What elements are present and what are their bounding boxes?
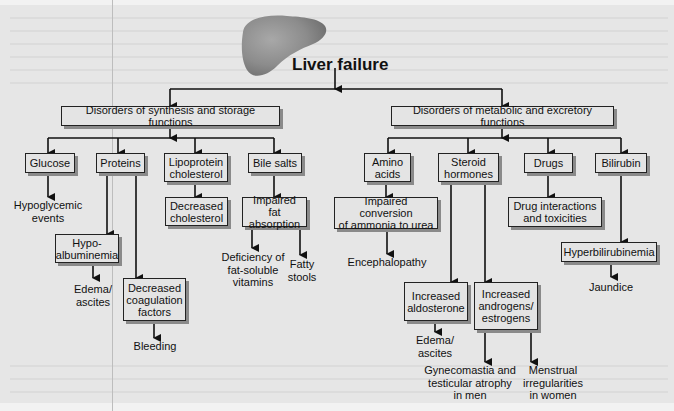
node-decreased-coagulation-factors: Decreased coagulation factors	[123, 278, 186, 321]
node-hyperbilirubinemia: Hyperbilirubinemia	[561, 242, 657, 262]
node-bile-salts: Bile salts	[248, 153, 302, 173]
node-drugs: Drugs	[524, 153, 573, 173]
node-lipoprotein-cholesterol: Lipoprotein cholesterol	[164, 153, 228, 182]
effect-gynecomastia-testicular-atrophy: Gynecomastia and testicular atrophy in m…	[420, 364, 520, 402]
node-synthesis-storage: Disorders of synthesis and storage funct…	[61, 106, 280, 126]
effect-jaundice: Jaundice	[580, 281, 642, 294]
node-glucose: Glucose	[25, 153, 75, 173]
effect-menstrual-irregularities: Menstrual irregularities in women	[517, 364, 589, 402]
effect-fat-soluble-vitamin-deficiency: Deficiency of fat-soluble vitamins	[213, 251, 293, 289]
effect-bleeding: Bleeding	[125, 340, 185, 353]
node-drug-interactions-toxicities: Drug interactions and toxicities	[508, 197, 602, 227]
effect-encephalopathy: Encephalopathy	[340, 256, 434, 269]
node-impaired-fat-absorption: Impaired fat absorption	[242, 197, 307, 227]
node-impaired-ammonia-conversion: Impaired conversion of ammonia to urea	[334, 197, 438, 229]
effect-edema-ascites-left: Edema/ ascites	[70, 283, 116, 308]
effect-fatty-stools: Fatty stools	[282, 258, 322, 283]
node-hypoalbuminemia: Hypo- albuminemia	[55, 234, 119, 263]
node-metabolic-excretory: Disorders of metabolic and excretory fun…	[391, 106, 614, 126]
node-decreased-cholesterol: Decreased cholesterol	[165, 197, 228, 226]
node-increased-androgens-estrogens: Increased androgens/ estrogens	[474, 282, 538, 330]
effect-edema-ascites-right: Edema/ ascites	[410, 334, 460, 359]
node-amino-acids: Amino acids	[364, 153, 411, 182]
node-proteins: Proteins	[96, 153, 145, 173]
node-bilirubin: Bilirubin	[595, 153, 647, 173]
effect-hypoglycemic-events: Hypoglycemic events	[10, 199, 86, 224]
node-increased-aldosterone: Increased aldosterone	[404, 282, 468, 321]
node-steroid-hormones: Steroid hormones	[438, 153, 499, 182]
